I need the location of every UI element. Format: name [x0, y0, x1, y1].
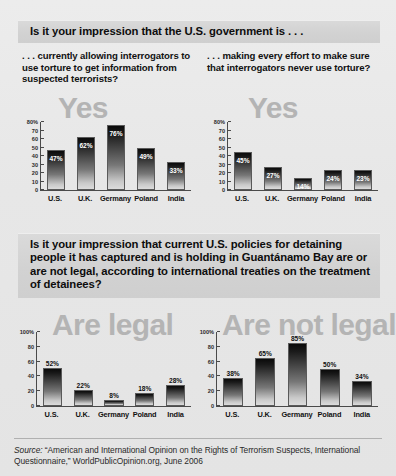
x-axis-label: Germany [98, 410, 129, 419]
x-axis-label: Poland [131, 194, 161, 203]
y-tick-label: 50 [32, 145, 41, 151]
bar[interactable]: 62% [77, 137, 96, 190]
x-axis-label: U.S. [40, 194, 70, 203]
question-band-2: Is it your impression that current U.S. … [18, 233, 380, 298]
bar-cell: 23% [348, 122, 378, 190]
bar[interactable]: 49% [137, 148, 156, 190]
bar[interactable]: 8% [104, 400, 123, 406]
bar[interactable]: 65% [255, 358, 275, 406]
chart-guantanamo-are-legal: 100%806040200 52%22%8%18%28% U.S.U.K.Ger… [14, 330, 193, 422]
bar[interactable]: 85% [288, 343, 308, 406]
bar[interactable]: 34% [352, 381, 372, 406]
y-tick-label: 10 [32, 179, 41, 185]
bar-value-label: 65% [259, 350, 272, 357]
y-tick-label: 100% [20, 329, 37, 335]
x-axis-label: U.S. [227, 194, 257, 203]
y-tick-label: 80 [208, 344, 217, 350]
bar-cell: 18% [129, 332, 160, 406]
bar[interactable]: 76% [107, 125, 126, 190]
x-axis-label: Poland [318, 194, 348, 203]
plot-area: 80%706050403020100 47%62%76%49%33% [18, 120, 193, 191]
bar[interactable]: 24% [324, 170, 343, 190]
bar-value-label: 8% [109, 392, 119, 399]
x-axis-label: India [348, 194, 378, 203]
bar-cell: 52% [37, 332, 68, 406]
x-axis-label: Poland [313, 410, 345, 419]
y-tick-label: 70 [32, 128, 41, 134]
bar[interactable]: 45% [234, 152, 253, 190]
y-tick-label: 30 [219, 162, 228, 168]
bar-value-label: 52% [46, 360, 59, 367]
bar-cell: 33% [161, 122, 191, 190]
y-tick-label: 80 [28, 344, 37, 350]
bar[interactable]: 27% [264, 167, 283, 190]
bar[interactable]: 33% [167, 162, 186, 190]
y-tick-label: 40 [28, 373, 37, 379]
bar-value-label: 38% [226, 370, 239, 377]
chart-guantanamo-are-not-legal: 100%806040200 38%65%85%50%34% U.S.U.K.Ge… [194, 330, 380, 422]
bar-value-label: 22% [77, 382, 90, 389]
bar-series: 52%22%8%18%28% [37, 332, 191, 406]
question-2-text: Is it your impression that current U.S. … [18, 233, 380, 297]
x-axis-label: U.K. [257, 194, 287, 203]
x-axis-labels: U.S.U.K.GermanyPolandIndia [227, 192, 378, 206]
bar-cell: 85% [281, 332, 313, 406]
bar[interactable]: 38% [223, 378, 243, 406]
bar[interactable]: 50% [320, 369, 340, 406]
bar-cell: 28% [160, 332, 191, 406]
bar[interactable]: 22% [74, 390, 93, 406]
chart-never-use-torture-yes: 80%706050403020100 45%27%14%24%23% U.S.U… [205, 120, 380, 206]
bar-value-label: 23% [356, 175, 369, 182]
x-axis-labels: U.S.U.K.GermanyPolandIndia [216, 408, 378, 422]
x-axis-label: Germany [100, 194, 131, 203]
bar[interactable]: 52% [43, 368, 62, 406]
question-1-text: Is it your impression that the U.S. gove… [18, 20, 380, 43]
bar-value-label: 76% [109, 130, 122, 137]
bar-cell: 22% [68, 332, 99, 406]
x-axis-label: U.S. [36, 410, 67, 419]
y-tick-label: 60 [28, 359, 37, 365]
source-label: Source: [14, 445, 43, 455]
bar-value-label: 33% [169, 167, 182, 174]
x-axis-label: India [160, 410, 191, 419]
subquestion-right-text: . . . making every effort to make sure t… [207, 50, 387, 73]
y-tick-label: 70 [219, 128, 228, 134]
x-axis-label: Germany [281, 410, 313, 419]
bar[interactable]: 23% [354, 170, 373, 190]
y-tick-label: 30 [32, 162, 41, 168]
watermark-yes-right: Yes [248, 93, 298, 123]
bar[interactable]: 18% [135, 393, 154, 406]
x-axis-label: U.S. [216, 410, 248, 419]
footer-divider [14, 438, 382, 439]
y-tick-label: 10 [219, 179, 228, 185]
y-tick-label: 60 [208, 359, 217, 365]
bar-value-label: 85% [291, 335, 304, 342]
bar-cell: 76% [101, 122, 131, 190]
source-text: “American and International Opinion on t… [14, 445, 360, 466]
x-axis-label: U.K. [67, 410, 98, 419]
x-axis-label: Poland [129, 410, 160, 419]
bar[interactable]: 14% [294, 178, 313, 190]
bar-value-label: 14% [296, 183, 309, 190]
plot-area: 80%706050403020100 45%27%14%24%23% [205, 120, 380, 191]
bar-cell: 47% [41, 122, 71, 190]
plot-area: 100%806040200 52%22%8%18%28% [14, 330, 193, 407]
bar-series: 45%27%14%24%23% [228, 122, 378, 190]
bar-cell: 62% [71, 122, 101, 190]
bar-cell: 24% [318, 122, 348, 190]
bar-cell: 45% [228, 122, 258, 190]
x-axis-label: Germany [287, 194, 318, 203]
question-band-1: Is it your impression that the U.S. gove… [18, 20, 380, 43]
x-axis-label: U.K. [248, 410, 280, 419]
bar-cell: 65% [249, 332, 281, 406]
bar[interactable]: 47% [47, 150, 66, 190]
x-axis-labels: U.S.U.K.GermanyPolandIndia [36, 408, 191, 422]
y-tick-label: 40 [32, 153, 41, 159]
bar[interactable]: 28% [166, 385, 185, 406]
bar-cell: 27% [258, 122, 288, 190]
bar-value-label: 24% [326, 175, 339, 182]
chart-allowing-torture-yes: 80%706050403020100 47%62%76%49%33% U.S.U… [18, 120, 193, 206]
bar-cell: 38% [217, 332, 249, 406]
y-tick-label: 20 [219, 170, 228, 176]
axes: 80%706050403020100 47%62%76%49%33% [40, 122, 191, 191]
